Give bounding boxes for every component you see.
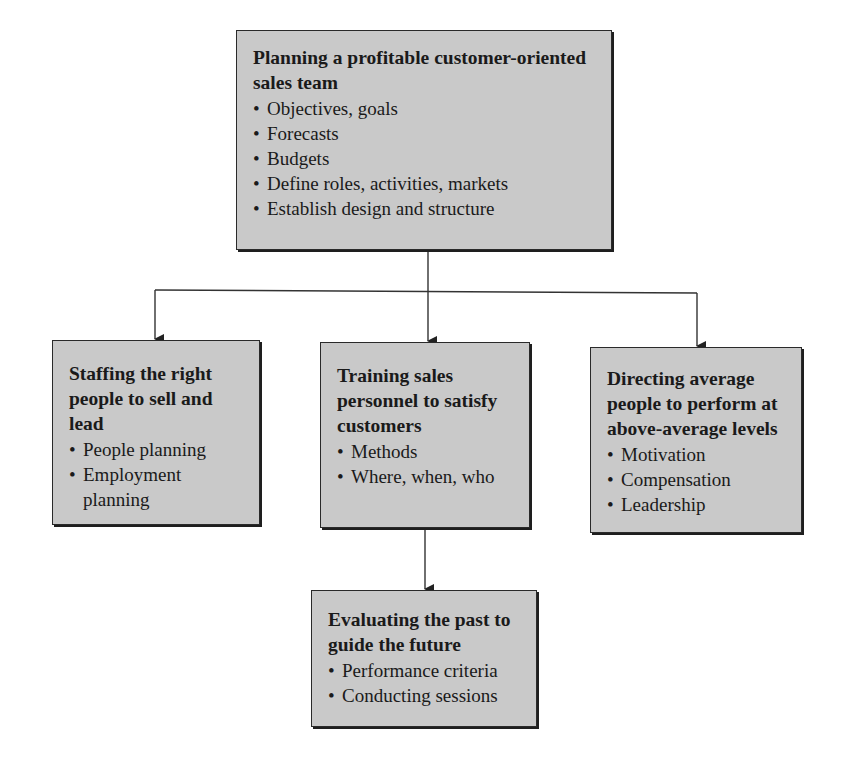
list-item: Define roles, activities, markets: [253, 171, 597, 196]
list-item: Budgets: [253, 146, 597, 171]
list-item: Performance criteria: [328, 658, 522, 683]
list-item: Compensation: [607, 467, 787, 492]
list-item: Employment planning: [69, 462, 203, 512]
list-item: Leadership: [607, 492, 787, 517]
list-item: Conducting sessions: [328, 683, 522, 708]
staffing-title: Staffing the right people to sell and le…: [69, 361, 245, 436]
list-item: Where, when, who: [337, 464, 515, 489]
list-item: Methods: [337, 439, 515, 464]
list-item: People planning: [69, 437, 245, 462]
training-items: Methods Where, when, who: [337, 439, 515, 489]
root-box-planning: Planning a profitable customer-oriented …: [236, 30, 612, 250]
list-item: Motivation: [607, 442, 787, 467]
leaf-box-evaluating: Evaluating the past to guide the future …: [311, 590, 537, 727]
directing-items: Motivation Compensation Leadership: [607, 442, 787, 517]
list-item: Objectives, goals: [253, 96, 597, 121]
training-title: Training sales personnel to satisfy cust…: [337, 363, 515, 438]
staffing-items: People planning Employment planning: [69, 437, 245, 512]
root-items: Objectives, goals Forecasts Budgets Defi…: [253, 96, 597, 221]
child-box-staffing: Staffing the right people to sell and le…: [52, 340, 260, 525]
horizontal-branch-line: [155, 290, 697, 293]
child-box-directing: Directing average people to perform at a…: [590, 347, 802, 533]
evaluating-title: Evaluating the past to guide the future: [328, 607, 522, 657]
list-item: Establish design and structure: [253, 196, 597, 221]
child-box-training: Training sales personnel to satisfy cust…: [320, 342, 530, 528]
root-title: Planning a profitable customer-oriented …: [253, 45, 597, 95]
list-item: Forecasts: [253, 121, 597, 146]
directing-title: Directing average people to perform at a…: [607, 366, 787, 441]
evaluating-items: Performance criteria Conducting sessions: [328, 658, 522, 708]
